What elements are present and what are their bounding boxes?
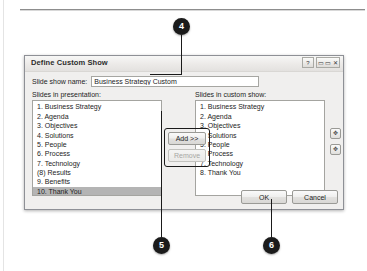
slide-show-name-label: Slide show name: bbox=[32, 78, 87, 85]
callout-badge-6: 6 bbox=[263, 237, 280, 254]
list-item[interactable]: 5. People bbox=[33, 141, 161, 150]
slides-in-presentation-label: Slides in presentation: bbox=[32, 91, 101, 98]
slides-in-custom-show-listbox[interactable]: 1. Business Strategy 2. Agenda 3. Object… bbox=[195, 100, 325, 196]
define-custom-show-dialog: Define Custom Show ? ▭ ▭ ✕ Slide show na… bbox=[24, 55, 344, 210]
slides-in-custom-show-label: Slides in custom show: bbox=[195, 91, 266, 98]
list-item[interactable]: 2. Agenda bbox=[196, 112, 324, 121]
help-icon[interactable]: ? bbox=[302, 57, 314, 68]
slide-show-name-row: Slide show name: bbox=[32, 76, 259, 87]
dialog-title: Define Custom Show bbox=[31, 58, 108, 67]
callout-badge-5: 5 bbox=[153, 237, 170, 254]
move-down-icon[interactable]: ✥ bbox=[330, 144, 341, 155]
list-item[interactable]: 7. Technology bbox=[33, 159, 161, 168]
callout-badge-4: 4 bbox=[173, 18, 190, 35]
move-up-icon[interactable]: ✥ bbox=[330, 128, 341, 139]
list-item[interactable]: 4. Solutions bbox=[33, 131, 161, 140]
list-item[interactable]: 2. Agenda bbox=[33, 112, 161, 121]
page-left-margin-rule bbox=[3, 0, 4, 271]
list-item[interactable]: 6. Process bbox=[33, 150, 161, 159]
window-controls-icon[interactable]: ▭ ▭ ✕ bbox=[316, 57, 340, 68]
list-item[interactable]: 1. Business Strategy bbox=[196, 103, 324, 112]
list-item[interactable]: 3. Objectives bbox=[196, 122, 324, 131]
list-item-selected[interactable]: 10. Thank You bbox=[33, 187, 161, 196]
add-button[interactable]: Add >> bbox=[168, 132, 206, 145]
list-item[interactable]: 8. Thank You bbox=[196, 169, 324, 178]
callout-4-leader-line bbox=[181, 35, 183, 75]
list-item[interactable]: (8) Results bbox=[33, 169, 161, 178]
list-item[interactable]: 9. Benefits bbox=[33, 178, 161, 187]
titlebar-button-group: ? ▭ ▭ ✕ bbox=[302, 57, 340, 68]
slides-in-presentation-listbox[interactable]: 1. Business Strategy 2. Agenda 3. Object… bbox=[32, 100, 162, 196]
ok-button[interactable]: OK bbox=[241, 190, 287, 204]
dialog-titlebar[interactable]: Define Custom Show ? ▭ ▭ ✕ bbox=[25, 56, 343, 72]
remove-button[interactable]: Remove bbox=[168, 149, 206, 162]
list-item[interactable]: 5. People bbox=[196, 141, 324, 150]
cancel-button[interactable]: Cancel bbox=[292, 190, 338, 204]
list-item[interactable]: 6. Process bbox=[196, 150, 324, 159]
callout-6-leader-line bbox=[271, 199, 273, 237]
callout-5-leader-line bbox=[161, 111, 163, 237]
list-item[interactable]: 3. Objectives bbox=[33, 122, 161, 131]
slide-show-name-input[interactable] bbox=[91, 76, 259, 87]
list-item[interactable]: 7. Technology bbox=[196, 159, 324, 168]
callout-4-leader-line-horizontal bbox=[150, 74, 182, 76]
list-item[interactable]: 4. Solutions bbox=[196, 131, 324, 140]
list-item[interactable]: 1. Business Strategy bbox=[33, 103, 161, 112]
page-top-rule bbox=[20, 9, 365, 11]
